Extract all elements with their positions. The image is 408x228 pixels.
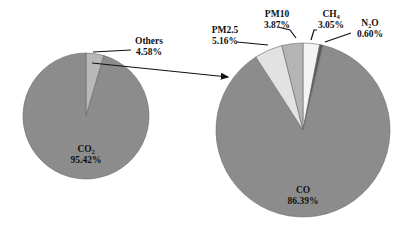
- label-n2o-value: 0.60%: [357, 29, 383, 39]
- label-n2o-name: N2O: [361, 18, 378, 29]
- label-co2-value: 95.42%: [71, 155, 102, 165]
- leader-others: [93, 50, 131, 52]
- label-pm25-value: 5.16%: [212, 36, 238, 46]
- label-co-name: CO: [296, 185, 310, 195]
- leader-n2o: [325, 33, 351, 42]
- label-others-name: Others: [135, 36, 163, 46]
- label-pm25-name: PM2.5: [212, 25, 239, 35]
- label-ch4-value: 3.05%: [318, 20, 344, 30]
- label-ch4-name: CH4: [322, 9, 339, 20]
- pie-chart-figure: CO295.42%Others4.58%CO86.39%PM2.55.16%PM…: [0, 0, 408, 228]
- leader-pm25: [237, 42, 268, 45]
- label-pm10-name: PM10: [265, 9, 290, 19]
- label-others-value: 4.58%: [136, 47, 162, 57]
- label-co-value: 86.39%: [288, 196, 319, 206]
- leader-ch4: [311, 30, 317, 40]
